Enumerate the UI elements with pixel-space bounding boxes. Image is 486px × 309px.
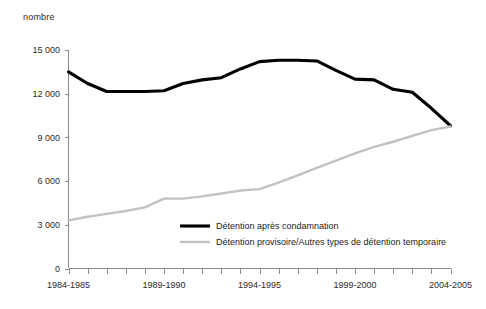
series-line-2: [69, 126, 451, 220]
y-axis-tick-label: 15 000: [32, 45, 60, 55]
y-axis-tick-label: 12 000: [32, 89, 60, 99]
x-axis-tick-label: 1994-1995: [238, 280, 281, 290]
x-axis-tick-label: 1999-2000: [333, 280, 376, 290]
chart-plot-area: 03 0006 0009 00012 00015 000 1984-198519…: [0, 0, 486, 309]
x-axis-tick-labels: 1984-19851989-19901994-19951999-20002004…: [47, 280, 472, 290]
y-axis-tick-label: 3 000: [37, 220, 60, 230]
y-axis-tick-label: 0: [55, 264, 60, 274]
x-axis-tick-label: 1989-1990: [142, 280, 185, 290]
y-axis-tick-label: 6 000: [37, 176, 60, 186]
y-axis-tick-marks: [65, 51, 69, 270]
line-chart: nombre 03 0006 0009 00012 00015 000 1984…: [0, 0, 486, 309]
y-axis-tick-label: 9 000: [37, 133, 60, 143]
legend-label-2: Détention provisoire/Autres types de dét…: [216, 237, 446, 247]
legend-label-1: Détention après condamnation: [216, 221, 339, 231]
x-axis-tick-marks: [70, 269, 452, 274]
chart-legend: Détention après condamnationDétention pr…: [180, 221, 446, 247]
x-axis-tick-label: 2004-2005: [429, 280, 472, 290]
x-axis-tick-label: 1984-1985: [47, 280, 90, 290]
series-line-1: [69, 60, 451, 126]
y-axis-tick-labels: 03 0006 0009 00012 00015 000: [32, 45, 60, 274]
data-series-group: [69, 60, 451, 220]
